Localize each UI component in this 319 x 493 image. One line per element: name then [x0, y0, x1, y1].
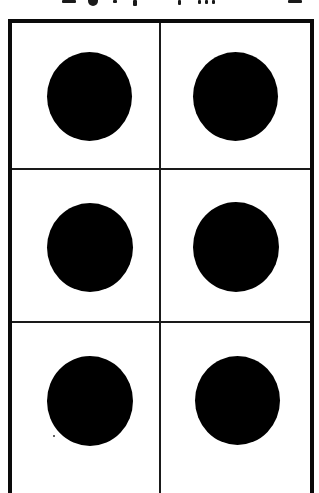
glyph-fragment: [198, 0, 201, 4]
glyph-fragment: [113, 0, 117, 3]
horizontal-divider-2: [12, 321, 310, 323]
glyph-fragment: [178, 0, 181, 5]
vertical-divider: [159, 23, 161, 493]
dot-2: [47, 203, 133, 292]
glyph-fragment: [88, 0, 98, 6]
glyph-fragment: [288, 0, 302, 3]
dot-3: [47, 356, 133, 446]
dot-4: [193, 52, 278, 141]
glyph-fragment: [133, 0, 137, 6]
glyph-fragment: [205, 0, 208, 4]
dot-1: [47, 52, 132, 141]
cropped-text-fragment: [0, 0, 319, 10]
glyph-fragment: [62, 0, 76, 3]
dot-5: [193, 202, 279, 292]
scan-speck: [53, 435, 55, 437]
braille-cell-frame: [8, 19, 314, 493]
dot-6: [195, 356, 280, 445]
horizontal-divider-1: [12, 168, 310, 170]
glyph-fragment: [212, 0, 215, 4]
